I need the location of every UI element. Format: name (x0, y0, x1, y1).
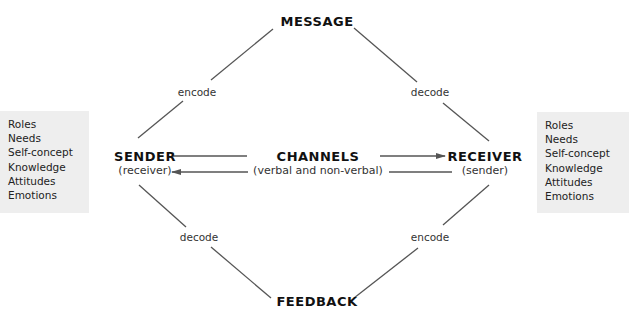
decode-label-upper: decode (411, 86, 449, 98)
edge-sender-message (138, 29, 273, 138)
message-title: MESSAGE (267, 15, 367, 29)
receiver-attribute: Self-concept (545, 146, 623, 160)
sender-attribute: Self-concept (8, 145, 83, 159)
channels-title: CHANNELS (243, 150, 393, 164)
receiver-attributes-list: Roles Needs Self-concept Knowledge Attit… (545, 118, 623, 203)
receiver-title: RECEIVER (445, 150, 525, 164)
channels-node: CHANNELS (verbal and non-verbal) (243, 150, 393, 178)
sender-attribute: Attitudes (8, 174, 83, 188)
receiver-attribute: Needs (545, 132, 623, 146)
receiver-attribute: Roles (545, 118, 623, 132)
sender-attributes-box: Roles Needs Self-concept Knowledge Attit… (0, 111, 89, 213)
feedback-node: FEEDBACK (267, 295, 367, 309)
decode-label-lower: decode (180, 231, 218, 243)
sender-title: SENDER (105, 150, 185, 164)
sender-attribute: Needs (8, 131, 83, 145)
message-node: MESSAGE (267, 15, 367, 29)
receiver-attribute: Emotions (545, 189, 623, 203)
sender-attributes-list: Roles Needs Self-concept Knowledge Attit… (8, 117, 83, 202)
encode-label-lower: encode (411, 231, 449, 243)
sender-node: SENDER (receiver) (105, 150, 185, 178)
receiver-attributes-box: Roles Needs Self-concept Knowledge Attit… (537, 112, 629, 213)
receiver-subtitle: (sender) (445, 164, 525, 178)
receiver-attribute: Attitudes (545, 175, 623, 189)
sender-attribute: Roles (8, 117, 83, 131)
sender-attribute: Knowledge (8, 160, 83, 174)
sender-attribute: Emotions (8, 188, 83, 202)
encode-label-upper: encode (178, 86, 216, 98)
receiver-attribute: Knowledge (545, 161, 623, 175)
feedback-title: FEEDBACK (267, 295, 367, 309)
sender-subtitle: (receiver) (105, 164, 185, 178)
channels-subtitle: (verbal and non-verbal) (243, 164, 393, 178)
receiver-node: RECEIVER (sender) (445, 150, 525, 178)
edge-message-receiver (354, 28, 489, 141)
